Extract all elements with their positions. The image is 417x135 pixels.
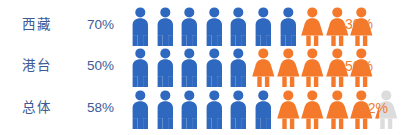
male-person-icon — [153, 89, 178, 129]
row-right-percent: 42% — [360, 101, 388, 115]
row-right-percent: 50% — [345, 59, 373, 73]
male-person-icon — [226, 89, 251, 129]
male-person-icon — [128, 89, 153, 129]
male-person-icon — [251, 6, 276, 46]
female-person-icon — [300, 89, 325, 129]
row-category-label: 港台 — [22, 59, 74, 73]
row-icon-group — [128, 87, 399, 129]
row-left-percent: 50% — [87, 59, 121, 73]
row-category-label: 西藏 — [22, 18, 74, 32]
row-right-percent: 30% — [345, 17, 373, 31]
female-person-icon — [276, 89, 301, 129]
male-person-icon — [226, 6, 251, 46]
male-person-icon — [226, 47, 251, 87]
male-person-icon — [128, 47, 153, 87]
male-person-icon — [202, 47, 227, 87]
row-left-percent: 58% — [87, 101, 121, 115]
pictogram-chart: 西藏 70% 30% 港台 50% 50% 总体 58% 42% — [0, 0, 417, 135]
male-person-icon — [276, 6, 301, 46]
male-person-icon — [177, 6, 202, 46]
male-person-icon — [177, 89, 202, 129]
male-person-icon — [202, 6, 227, 46]
female-person-icon — [251, 47, 276, 87]
row-category-label: 总体 — [22, 101, 74, 115]
male-person-icon — [153, 6, 178, 46]
female-person-icon — [325, 89, 350, 129]
chart-row-zongti: 总体 58% — [0, 87, 417, 129]
male-person-icon — [153, 47, 178, 87]
row-left-percent: 70% — [87, 18, 121, 32]
male-person-icon — [202, 89, 227, 129]
person-icon-filled-part — [251, 89, 271, 129]
female-person-icon — [300, 47, 325, 87]
row-icon-group — [128, 45, 374, 87]
row-icon-group — [128, 4, 374, 46]
male-person-icon — [177, 47, 202, 87]
female-person-icon — [276, 47, 301, 87]
male-person-icon — [251, 89, 276, 129]
male-person-icon — [128, 6, 153, 46]
female-person-icon — [300, 6, 325, 46]
